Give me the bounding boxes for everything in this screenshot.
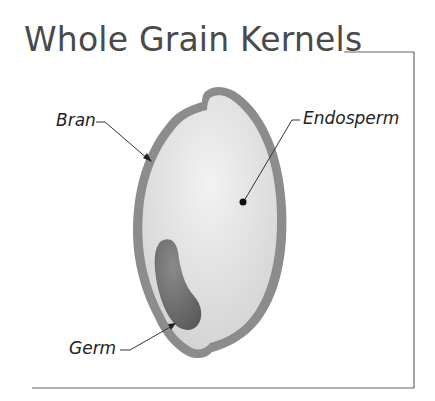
- kernel: [133, 87, 286, 358]
- label-endosperm: Endosperm: [303, 108, 399, 128]
- bran-pointer: [96, 122, 152, 162]
- endosperm-dot: [240, 199, 247, 206]
- label-germ: Germ: [69, 338, 116, 358]
- kernel-diagram: [0, 0, 435, 401]
- label-bran: Bran: [56, 110, 96, 130]
